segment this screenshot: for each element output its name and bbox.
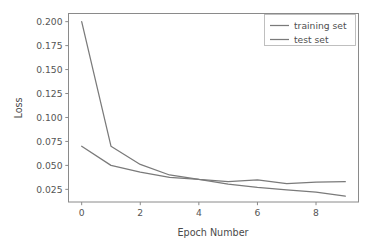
y-tick-label: 0.150 (36, 64, 62, 75)
y-tick-label: 0.050 (36, 160, 62, 171)
chart-figure: 0.0250.0500.0750.1000.1250.1500.1750.200… (0, 0, 375, 243)
y-tick-label: 0.200 (36, 16, 62, 27)
x-tick-label: 0 (79, 207, 85, 218)
y-tick-label: 0.125 (36, 88, 62, 99)
x-tick-label: 8 (313, 207, 319, 218)
y-tick-label: 0.075 (36, 136, 62, 147)
x-tick-label: 2 (137, 207, 143, 218)
x-tick-label: 4 (196, 207, 202, 218)
chart-legend: training settest set (265, 15, 356, 46)
y-tick-label: 0.025 (36, 184, 62, 195)
loss-vs-epoch-line-chart: 0.0250.0500.0750.1000.1250.1500.1750.200… (0, 0, 375, 243)
y-axis-title: Loss (13, 97, 24, 118)
legend-label-training-set: training set (294, 20, 347, 31)
x-tick-label: 6 (255, 207, 261, 218)
y-tick-label: 0.175 (36, 40, 62, 51)
y-tick-label: 0.100 (36, 112, 62, 123)
x-axis-title: Epoch Number (178, 227, 249, 238)
legend-label-test-set: test set (294, 34, 329, 45)
